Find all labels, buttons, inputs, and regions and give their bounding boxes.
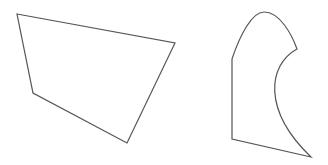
curved-shape	[232, 12, 311, 157]
diagram-canvas	[0, 0, 328, 165]
quadrilateral-shape	[17, 14, 175, 143]
